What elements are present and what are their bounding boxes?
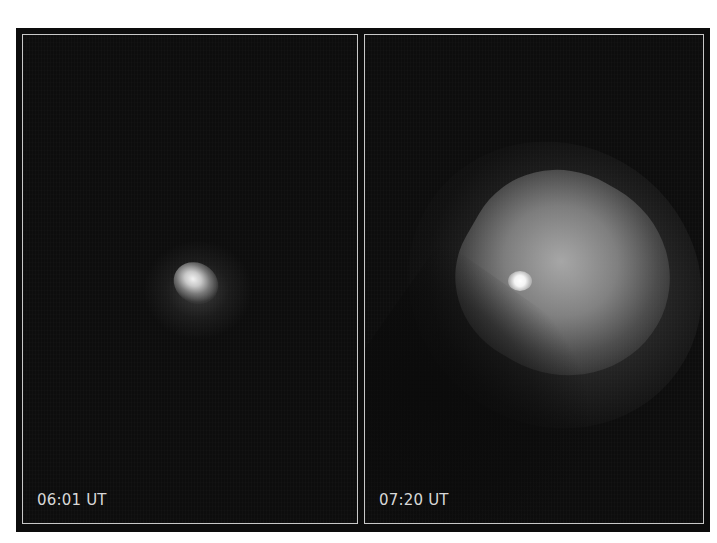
panel-0601: 06:01 UT — [22, 34, 358, 524]
panel-0720: 07:20 UT — [364, 34, 704, 524]
comet-nucleus — [508, 271, 532, 291]
timestamp-label: 07:20 UT — [379, 491, 449, 509]
figure-frame: 06:01 UT 07:20 UT — [16, 28, 710, 532]
timestamp-label: 06:01 UT — [37, 491, 107, 509]
